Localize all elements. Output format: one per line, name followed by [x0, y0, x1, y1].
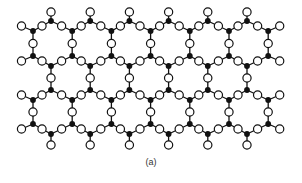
- bridge-node-icon: [77, 91, 85, 99]
- terminal-node-icon: [204, 8, 212, 16]
- black-node-icon: [205, 87, 211, 93]
- bridge-node-icon: [156, 22, 164, 30]
- honeycomb-network-diagram: [0, 0, 302, 183]
- terminal-node-icon: [125, 8, 133, 16]
- terminal-node-icon: [47, 8, 55, 16]
- bridge-node-icon: [47, 74, 55, 82]
- black-node-icon: [265, 53, 271, 59]
- bridge-node-icon: [175, 22, 183, 30]
- bridge-node-icon: [234, 57, 242, 65]
- black-node-icon: [205, 131, 211, 137]
- bridge-node-icon: [156, 91, 164, 99]
- bridge-node-icon: [175, 125, 183, 133]
- black-node-icon: [69, 97, 75, 103]
- bridge-node-icon: [29, 39, 37, 47]
- bridge-node-icon: [147, 39, 155, 47]
- black-node-icon: [87, 87, 93, 93]
- bridge-node-icon: [38, 22, 46, 30]
- black-node-icon: [87, 18, 93, 24]
- black-node-icon: [109, 53, 115, 59]
- bridge-node-icon: [264, 39, 272, 47]
- bridge-node-icon: [38, 125, 46, 133]
- bridge-node-icon: [107, 108, 115, 116]
- black-node-icon: [166, 63, 172, 69]
- black-node-icon: [109, 97, 115, 103]
- black-node-icon: [126, 63, 132, 69]
- black-node-icon: [148, 97, 154, 103]
- black-node-icon: [187, 97, 193, 103]
- black-node-icon: [205, 18, 211, 24]
- black-node-icon: [187, 121, 193, 127]
- bridge-node-icon: [136, 57, 144, 65]
- bridge-node-icon: [254, 125, 262, 133]
- bridge-node-icon: [125, 74, 133, 82]
- black-node-icon: [126, 18, 132, 24]
- black-node-icon: [30, 28, 36, 34]
- bridge-node-icon: [234, 22, 242, 30]
- black-node-icon: [244, 63, 250, 69]
- black-node-icon: [148, 121, 154, 127]
- bridge-node-icon: [254, 22, 262, 30]
- bridge-node-icon: [136, 22, 144, 30]
- terminal-node-icon: [17, 22, 25, 30]
- black-node-icon: [226, 53, 232, 59]
- bridge-node-icon: [156, 125, 164, 133]
- bridge-node-icon: [254, 57, 262, 65]
- terminal-node-icon: [165, 141, 173, 149]
- bridge-node-icon: [58, 91, 66, 99]
- bridge-node-icon: [254, 91, 262, 99]
- bridge-node-icon: [156, 57, 164, 65]
- bridge-node-icon: [77, 57, 85, 65]
- black-node-icon: [244, 131, 250, 137]
- black-node-icon: [30, 97, 36, 103]
- black-node-icon: [148, 28, 154, 34]
- terminal-node-icon: [276, 125, 284, 133]
- terminal-node-icon: [17, 125, 25, 133]
- bridge-node-icon: [86, 74, 94, 82]
- black-node-icon: [126, 131, 132, 137]
- bridge-node-icon: [195, 91, 203, 99]
- bridge-node-icon: [136, 91, 144, 99]
- black-node-icon: [226, 28, 232, 34]
- terminal-node-icon: [276, 22, 284, 30]
- terminal-node-icon: [125, 141, 133, 149]
- figure-caption: (a): [0, 157, 302, 167]
- black-node-icon: [148, 53, 154, 59]
- black-node-icon: [48, 87, 54, 93]
- terminal-node-icon: [17, 57, 25, 65]
- bridge-node-icon: [243, 74, 251, 82]
- bridge-node-icon: [186, 39, 194, 47]
- bridge-node-icon: [97, 22, 105, 30]
- black-node-icon: [226, 121, 232, 127]
- bridge-node-icon: [214, 57, 222, 65]
- bridge-node-icon: [77, 22, 85, 30]
- terminal-node-icon: [47, 141, 55, 149]
- bridge-node-icon: [234, 91, 242, 99]
- bridge-node-icon: [234, 125, 242, 133]
- terminal-node-icon: [17, 91, 25, 99]
- terminal-node-icon: [243, 141, 251, 149]
- bridge-node-icon: [116, 91, 124, 99]
- bridge-node-icon: [175, 91, 183, 99]
- bridge-node-icon: [136, 125, 144, 133]
- black-node-icon: [69, 53, 75, 59]
- black-node-icon: [48, 131, 54, 137]
- black-node-icon: [69, 28, 75, 34]
- bridge-node-icon: [195, 57, 203, 65]
- black-node-icon: [87, 63, 93, 69]
- black-node-icon: [265, 28, 271, 34]
- terminal-node-icon: [86, 8, 94, 16]
- bridge-node-icon: [195, 125, 203, 133]
- black-node-icon: [30, 53, 36, 59]
- terminal-node-icon: [276, 91, 284, 99]
- bridge-node-icon: [107, 39, 115, 47]
- bridge-node-icon: [165, 74, 173, 82]
- black-node-icon: [87, 131, 93, 137]
- black-node-icon: [187, 28, 193, 34]
- terminal-node-icon: [204, 141, 212, 149]
- black-node-icon: [30, 121, 36, 127]
- bridge-node-icon: [58, 57, 66, 65]
- bridge-node-icon: [214, 91, 222, 99]
- black-node-icon: [265, 97, 271, 103]
- black-node-icon: [244, 18, 250, 24]
